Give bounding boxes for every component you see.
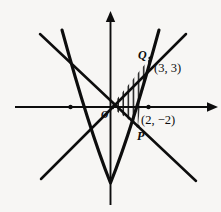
x-tick-positive xyxy=(146,105,150,109)
x-axis-arrowhead xyxy=(207,102,218,112)
math-figure: Q (3, 3) P (2, −2) O xyxy=(0,0,221,212)
figure-canvas xyxy=(0,0,221,212)
origin-label: O xyxy=(101,110,108,120)
point-marker-p xyxy=(136,124,139,127)
point-marker-q xyxy=(148,56,151,59)
y-axis-arrowhead xyxy=(106,11,115,22)
x-tick-negative xyxy=(68,105,72,109)
coord-label-p: (2, −2) xyxy=(141,114,175,127)
coord-label-q: (3, 3) xyxy=(154,62,181,75)
point-label-q: Q xyxy=(138,49,147,61)
point-label-p: P xyxy=(137,130,144,142)
